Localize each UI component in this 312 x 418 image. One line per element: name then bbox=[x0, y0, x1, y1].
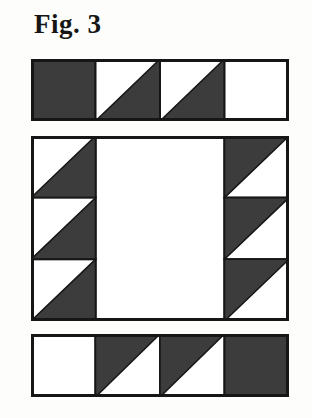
middle-block bbox=[31, 136, 289, 321]
quilt-cell-dark-square bbox=[31, 59, 96, 121]
bottom-strip bbox=[31, 334, 289, 397]
quilt-cell-dark-square bbox=[225, 334, 290, 397]
quilt-cell-light-square bbox=[31, 334, 96, 397]
figure-label: Fig. 3 bbox=[34, 9, 102, 40]
figure-page: Fig. 3 bbox=[0, 0, 312, 418]
quilt-cell-light-square bbox=[225, 59, 290, 121]
quilt-cell-light-square bbox=[96, 136, 225, 321]
top-strip bbox=[31, 59, 289, 121]
